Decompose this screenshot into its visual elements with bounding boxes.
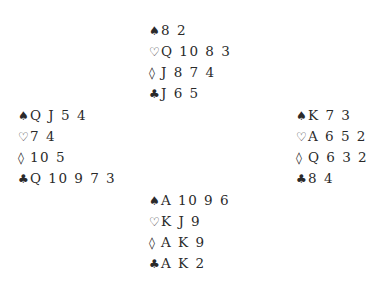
east-hearts-cards: A 6 5 2 bbox=[308, 128, 367, 144]
diamond-icon: ◊ bbox=[149, 233, 161, 254]
east-spades: ♠K 7 3 bbox=[296, 105, 368, 126]
east-hand: ♠K 7 3 ♡A 6 5 2 ◊Q 6 3 2 ♣8 4 bbox=[296, 105, 368, 189]
north-hand: ♠8 2 ♡Q 10 8 3 ◊J 8 7 4 ♣J 6 5 bbox=[149, 20, 231, 104]
west-clubs: ♣Q 10 9 7 3 bbox=[18, 168, 116, 189]
spade-icon: ♠ bbox=[149, 191, 161, 212]
club-icon: ♣ bbox=[149, 84, 161, 105]
east-diamonds-cards: Q 6 3 2 bbox=[308, 149, 368, 165]
north-diamonds: ◊J 8 7 4 bbox=[149, 62, 231, 83]
south-hearts-cards: K J 9 bbox=[161, 213, 201, 229]
west-spades: ♠Q J 5 4 bbox=[18, 105, 116, 126]
club-icon: ♣ bbox=[149, 254, 161, 275]
west-diamonds-cards: 10 5 bbox=[30, 149, 66, 165]
east-diamonds: ◊Q 6 3 2 bbox=[296, 147, 368, 168]
south-spades-cards: A 10 9 6 bbox=[161, 192, 230, 208]
north-hearts-cards: Q 10 8 3 bbox=[161, 43, 231, 59]
north-spades-cards: 8 2 bbox=[161, 22, 187, 38]
club-icon: ♣ bbox=[18, 169, 30, 190]
south-spades: ♠A 10 9 6 bbox=[149, 190, 230, 211]
north-hearts: ♡Q 10 8 3 bbox=[149, 41, 231, 62]
diamond-icon: ◊ bbox=[296, 148, 308, 169]
south-hand: ♠A 10 9 6 ♡K J 9 ◊A K 9 ♣A K 2 bbox=[149, 190, 230, 274]
diamond-icon: ◊ bbox=[149, 63, 161, 84]
west-hearts-cards: 7 4 bbox=[30, 128, 56, 144]
west-clubs-cards: Q 10 9 7 3 bbox=[30, 170, 116, 186]
south-diamonds-cards: A K 9 bbox=[161, 234, 206, 250]
spade-icon: ♠ bbox=[149, 21, 161, 42]
north-clubs: ♣J 6 5 bbox=[149, 83, 231, 104]
west-hearts: ♡7 4 bbox=[18, 126, 116, 147]
north-spades: ♠8 2 bbox=[149, 20, 231, 41]
heart-icon: ♡ bbox=[149, 212, 161, 233]
east-clubs: ♣8 4 bbox=[296, 168, 368, 189]
heart-icon: ♡ bbox=[296, 127, 308, 148]
north-clubs-cards: J 6 5 bbox=[161, 85, 200, 101]
west-spades-cards: Q J 5 4 bbox=[30, 107, 87, 123]
south-hearts: ♡K J 9 bbox=[149, 211, 230, 232]
south-clubs: ♣A K 2 bbox=[149, 253, 230, 274]
club-icon: ♣ bbox=[296, 169, 308, 190]
diamond-icon: ◊ bbox=[18, 148, 30, 169]
north-diamonds-cards: J 8 7 4 bbox=[161, 64, 216, 80]
spade-icon: ♠ bbox=[296, 106, 308, 127]
south-clubs-cards: A K 2 bbox=[161, 255, 206, 271]
south-diamonds: ◊A K 9 bbox=[149, 232, 230, 253]
west-hand: ♠Q J 5 4 ♡7 4 ◊10 5 ♣Q 10 9 7 3 bbox=[18, 105, 116, 189]
east-spades-cards: K 7 3 bbox=[308, 107, 351, 123]
heart-icon: ♡ bbox=[149, 42, 161, 63]
east-hearts: ♡A 6 5 2 bbox=[296, 126, 368, 147]
west-diamonds: ◊10 5 bbox=[18, 147, 116, 168]
east-clubs-cards: 8 4 bbox=[308, 170, 334, 186]
heart-icon: ♡ bbox=[18, 127, 30, 148]
spade-icon: ♠ bbox=[18, 106, 30, 127]
